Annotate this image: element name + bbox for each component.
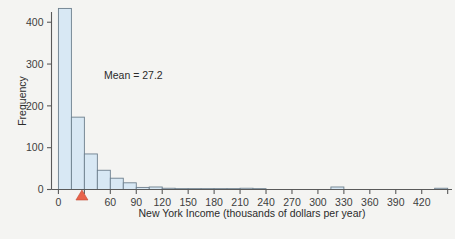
histogram-bar (110, 178, 123, 189)
y-tick-label: 200 (26, 100, 44, 112)
x-axis-title: New York Income (thousands of dollars pe… (138, 207, 365, 219)
bar-rect (58, 8, 71, 189)
x-tick-label: 300 (309, 196, 327, 208)
histogram-bar (84, 154, 97, 190)
histogram-bar (123, 183, 136, 190)
histogram-bar (71, 117, 84, 189)
x-tick-label: 390 (387, 196, 405, 208)
x-tick-label: 360 (361, 196, 379, 208)
x-tick-label: 0 (55, 196, 61, 208)
y-axis-title: Frequency (16, 75, 28, 125)
y-tick-label: 100 (26, 141, 44, 153)
x-tick-label: 210 (231, 196, 249, 208)
x-tick-label: 90 (130, 196, 142, 208)
x-tick-label: 150 (179, 196, 197, 208)
bar-rect (97, 170, 110, 189)
bar-rect (110, 178, 123, 189)
x-tick-label: 180 (205, 196, 223, 208)
x-tick-label: 240 (257, 196, 275, 208)
mean-annotation-label: Mean = 27.2 (104, 69, 163, 81)
bar-rect (123, 183, 136, 190)
histogram-bar (97, 170, 110, 189)
histogram-figure: 0100200300400 06090120150180210240270300… (0, 0, 455, 239)
bar-rect (71, 117, 84, 189)
x-tick-label: 330 (335, 196, 353, 208)
y-tick-label: 300 (26, 58, 44, 70)
bar-rect (84, 154, 97, 190)
x-tick-label: 120 (153, 196, 171, 208)
x-tick-label: 270 (283, 196, 301, 208)
y-tick-label: 0 (38, 183, 44, 195)
histogram-bar (58, 8, 71, 189)
y-tick-label: 400 (26, 16, 44, 28)
x-tick-label: 60 (104, 196, 116, 208)
x-tick-label: 420 (413, 196, 431, 208)
